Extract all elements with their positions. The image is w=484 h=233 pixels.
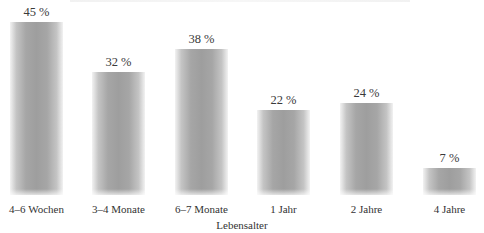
bar-value-label: 22 % (254, 93, 314, 108)
bar-value-label: 45 % (7, 5, 67, 20)
bar (175, 49, 228, 195)
category-label: 3–4 Monate (79, 203, 159, 215)
category-label: 1 Jahr (244, 203, 324, 215)
category-label: 6–7 Monate (162, 203, 242, 215)
category-label: 4 Jahre (410, 203, 484, 215)
category-label: 2 Jahre (327, 203, 407, 215)
bar-value-label: 7 % (420, 151, 480, 166)
bar (423, 168, 476, 195)
bar (10, 22, 63, 195)
bar-value-label: 32 % (89, 55, 149, 70)
category-label: 4–6 Wochen (0, 203, 77, 215)
bar (257, 110, 310, 195)
bar-value-label: 38 % (172, 32, 232, 47)
bar (92, 72, 145, 195)
bar-value-label: 24 % (337, 86, 397, 101)
bar (340, 103, 393, 195)
x-axis-title: Lebensalter (0, 219, 484, 231)
bar-chart: 45 %4–6 Wochen32 %3–4 Monate38 %6–7 Mona… (0, 0, 484, 233)
